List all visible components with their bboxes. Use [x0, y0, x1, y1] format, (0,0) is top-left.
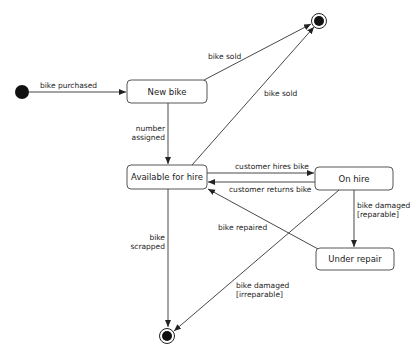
transition-label: bike damaged: [357, 201, 411, 210]
state-label: Available for hire: [131, 172, 203, 182]
transition-label: [reparable]: [357, 210, 399, 219]
state-available-for-hire: Available for hire: [127, 165, 207, 189]
state-diagram: bike purchased bike sold number assigned…: [0, 0, 420, 352]
transition-number-assigned: number assigned: [132, 103, 168, 164]
transition-label: [irreparable]: [236, 290, 283, 299]
state-label: New bike: [148, 87, 187, 97]
state-label: Under repair: [328, 254, 382, 264]
state-on-hire: On hire: [315, 167, 393, 190]
final-state-top-icon: [312, 14, 327, 29]
state-label: On hire: [338, 174, 369, 184]
transition-label: assigned: [132, 133, 166, 142]
initial-state-icon: [15, 85, 29, 99]
transition-new-sold: bike sold: [204, 24, 311, 80]
transition-label: bike repaired: [218, 223, 267, 232]
transition-label: bike: [149, 233, 165, 242]
state-new-bike: New bike: [127, 80, 207, 103]
transition-label: bike sold: [208, 52, 241, 61]
transition-label: bike damaged: [236, 281, 290, 290]
transition-label: bike sold: [264, 89, 297, 98]
transition-label: customer hires bike: [235, 162, 309, 171]
transition-label: scrapped: [130, 242, 165, 251]
transition-bike-damaged-reparable: bike damaged [reparable]: [354, 190, 411, 247]
transition-customer-hires: customer hires bike: [207, 162, 314, 173]
transition-label: customer returns bike: [229, 185, 312, 194]
transition-bike-scrapped: bike scrapped: [130, 189, 168, 327]
transition-bike-repaired: bike repaired: [208, 189, 318, 249]
transition-available-sold: bike sold: [192, 27, 314, 165]
transition-bike-purchased: bike purchased: [29, 81, 126, 92]
transition-label: bike purchased: [40, 81, 97, 90]
transition-bike-damaged-irreparable: bike damaged [irreparable]: [174, 190, 339, 331]
transition-customer-returns: customer returns bike: [208, 182, 315, 194]
final-state-bottom-icon: [160, 329, 175, 344]
transition-label: number: [136, 124, 166, 133]
state-under-repair: Under repair: [316, 248, 394, 270]
